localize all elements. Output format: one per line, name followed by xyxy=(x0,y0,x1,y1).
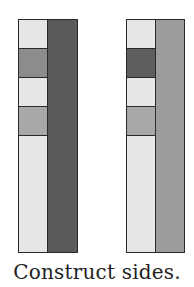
bar-cell-light xyxy=(19,136,47,252)
bar-cell-light xyxy=(19,20,47,49)
figure-caption: Construct sides. xyxy=(0,260,194,284)
right-bar-cell-column xyxy=(127,20,156,252)
bar-cell-medium xyxy=(19,107,47,136)
bar-cell-light xyxy=(127,136,155,252)
left-bar-solid-side xyxy=(48,20,77,252)
left-bar-cell-column xyxy=(19,20,48,252)
bar-cell-light xyxy=(127,78,155,107)
right-bar-figure xyxy=(126,19,185,253)
bar-cell-medium xyxy=(127,107,155,136)
bar-cell-light xyxy=(127,20,155,49)
bar-cell-medium-dark xyxy=(19,49,47,78)
right-bar-solid-side xyxy=(156,20,184,252)
left-bar-figure xyxy=(18,19,78,253)
bar-cell-dark xyxy=(127,49,155,78)
bar-cell-light xyxy=(19,78,47,107)
